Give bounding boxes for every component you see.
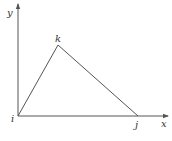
y-axis-label: y	[6, 7, 13, 18]
triangle-diagram: y x k i j	[0, 0, 172, 141]
vertex-label-i: i	[11, 113, 14, 124]
x-axis-label: x	[161, 118, 167, 129]
edge-k-i	[18, 45, 58, 116]
vertex-label-j: j	[133, 119, 138, 130]
edge-j-k	[58, 45, 138, 116]
vertex-label-k: k	[55, 33, 61, 44]
